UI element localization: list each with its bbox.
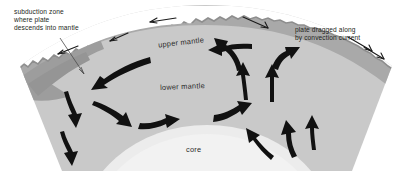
callout-plate-dragged: plate dragged along by convection curren… <box>295 26 360 42</box>
callout-subduction-line-3: descends into mantle <box>14 24 79 32</box>
earth-convection-diagram: subduction zone where plate descends int… <box>0 0 409 171</box>
callout-plate-line-2: by convection current <box>295 34 360 42</box>
callout-subduction-line-2: where plate <box>14 16 79 24</box>
callout-plate-line-1: plate dragged along <box>295 26 360 34</box>
label-core: core <box>186 145 201 154</box>
callout-subduction-zone: subduction zone where plate descends int… <box>14 8 79 33</box>
callout-subduction-line-1: subduction zone <box>14 8 79 16</box>
